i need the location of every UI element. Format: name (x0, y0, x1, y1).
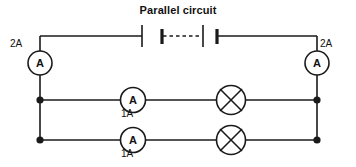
junction-node-right-top (313, 96, 320, 103)
main-ammeter-right-symbol: A (313, 57, 321, 69)
main-ammeter-left-symbol: A (36, 57, 44, 69)
branch-ammeter-bottom-symbol: A (129, 134, 137, 146)
junction-node-right-bottom (313, 136, 320, 143)
junction-node-left-top (36, 96, 43, 103)
circuit-diagram-page: Parallel circuit (0, 0, 356, 167)
parallel-circuit-schematic: A A A A (0, 0, 356, 167)
main-ammeter-right-reading: 2A (320, 38, 332, 49)
branch-ammeter-top-reading: 1A (121, 108, 133, 119)
main-ammeter-left-reading: 2A (10, 38, 22, 49)
junction-node-left-bottom (36, 136, 43, 143)
branch-ammeter-bottom-reading: 1A (121, 148, 133, 159)
branch-ammeter-top-symbol: A (129, 94, 137, 106)
